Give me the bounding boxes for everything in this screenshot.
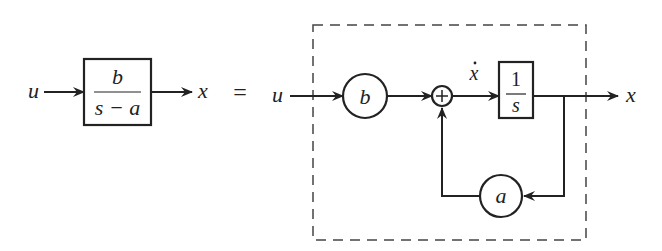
gain-a-label: a xyxy=(496,183,507,208)
xdot-label: x xyxy=(469,62,479,84)
integrator-denominator: s xyxy=(512,94,520,116)
left-transfer-function: u b s − a x xyxy=(28,59,208,125)
right-realization: u b x 1 s x a xyxy=(272,25,636,240)
right-output-label: x xyxy=(625,82,636,107)
left-input-label: u xyxy=(28,78,39,103)
block-diagram: u b s − a x = u b x 1 s x a xyxy=(0,0,662,251)
left-output-label: x xyxy=(197,78,208,103)
tf-denominator: s − a xyxy=(95,95,140,120)
integrator-numerator: 1 xyxy=(511,68,521,90)
equals-sign: = xyxy=(233,79,247,105)
a-to-sum-feedback-path xyxy=(442,108,480,196)
tf-numerator: b xyxy=(112,64,123,89)
dashed-boundary xyxy=(313,25,586,240)
right-input-label: u xyxy=(272,82,283,107)
xdot-dot xyxy=(474,62,477,65)
gain-b-label: b xyxy=(360,84,371,109)
